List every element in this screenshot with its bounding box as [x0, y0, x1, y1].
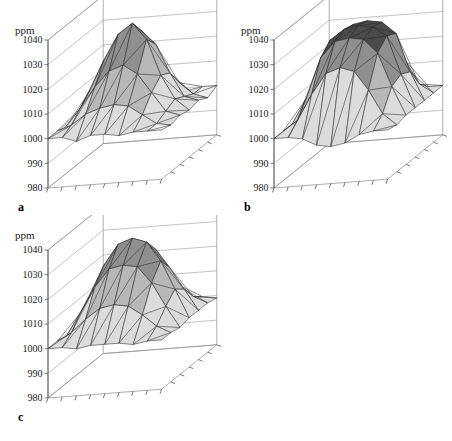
z-tick-label: 1000 [23, 133, 43, 144]
z-tick-label: 1030 [249, 59, 269, 70]
z-tick-label: 980 [28, 392, 43, 403]
z-tick-label: 1030 [23, 269, 43, 280]
panel-b: ppm 98099010001010102010301040 b [226, 0, 452, 220]
panel-b-label: b [244, 200, 251, 214]
z-tick-label: 990 [28, 158, 43, 169]
z-tick-label: 1010 [23, 318, 43, 329]
panel-a: ppm 98099010001010102010301040 a [0, 0, 226, 220]
z-tick-label: 1040 [23, 34, 43, 45]
z-tick-label: 1020 [23, 84, 43, 95]
z-tick-label: 1000 [249, 133, 269, 144]
panel-a-label: a [18, 200, 24, 214]
z-tick-label: 1010 [249, 108, 269, 119]
z-tick-label: 1040 [249, 34, 269, 45]
panel-c-plot: ppm 98099010001010102010301040 c [0, 215, 226, 441]
z-tick-label: 1040 [23, 244, 43, 255]
z-tick-label: 1020 [249, 84, 269, 95]
z-tick-label: 980 [254, 182, 269, 193]
z-tick-label: 980 [28, 182, 43, 193]
z-tick-label: 1030 [23, 59, 43, 70]
panel-c: ppm 98099010001010102010301040 c [0, 215, 226, 441]
panel-c-axis-unit: ppm [15, 229, 35, 241]
panel-c-label: c [18, 410, 24, 424]
panel-a-surface: 98099010001010102010301040 [23, 0, 222, 193]
z-tick-label: 990 [28, 368, 43, 379]
z-tick-label: 1000 [23, 343, 43, 354]
panel-c-surface: 98099010001010102010301040 [23, 215, 222, 403]
z-tick-label: 1020 [23, 294, 43, 305]
z-tick-label: 1010 [23, 108, 43, 119]
z-tick-label: 990 [254, 158, 269, 169]
panel-a-plot: ppm 98099010001010102010301040 a [0, 0, 226, 220]
panel-b-surface: 98099010001010102010301040 [249, 0, 448, 193]
figure-root: ppm 98099010001010102010301040 a ppm 980… [0, 0, 452, 441]
panel-b-plot: ppm 98099010001010102010301040 b [226, 0, 452, 220]
